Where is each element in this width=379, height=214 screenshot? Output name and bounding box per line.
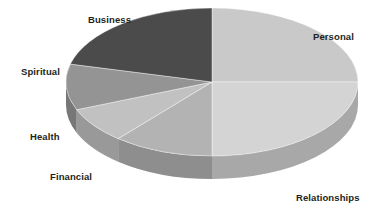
pie-slice-personal[interactable]: [212, 8, 358, 82]
pie-label-financial: Financial: [50, 171, 92, 182]
pie-chart-figure: PersonalRelationshipsFinancialHealthSpir…: [0, 0, 379, 214]
pie-label-spiritual: Spiritual: [21, 66, 60, 77]
pie-label-health: Health: [30, 131, 60, 142]
pie-label-relationships: Relationships: [296, 192, 360, 203]
pie-label-personal: Personal: [313, 31, 354, 42]
pie-label-business: Business: [88, 14, 131, 25]
pie-slice-relationships[interactable]: [212, 82, 358, 156]
